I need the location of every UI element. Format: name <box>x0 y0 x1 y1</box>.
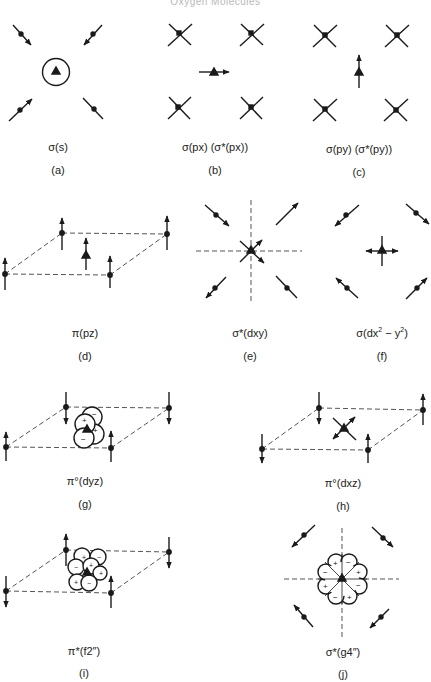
panel-d-diagram <box>3 216 169 290</box>
panel-d-orbital-label: π(pz) <box>15 327 155 339</box>
svg-text:−: − <box>346 558 351 567</box>
panel-g-diagram <box>4 392 171 462</box>
panel-j-tag: (j) <box>273 668 413 680</box>
svg-text:+: + <box>74 579 78 586</box>
svg-text:−: − <box>87 580 91 587</box>
panel-i-diagram <box>4 534 171 608</box>
panel-g-tag: (g) <box>15 498 155 510</box>
svg-text:+: + <box>99 570 103 577</box>
svg-text:−: − <box>81 435 86 444</box>
panel-h-orbital-label: π°(dxz) <box>273 477 413 489</box>
svg-text:−: − <box>323 568 328 577</box>
svg-text:+: + <box>82 416 87 425</box>
panel-f-tag: (f) <box>312 350 431 362</box>
svg-text:−: − <box>356 581 361 590</box>
panel-c-orbital-label: σ(py) (σ*(py)) <box>289 143 429 155</box>
svg-text:+: + <box>356 568 361 577</box>
svg-text:+: + <box>333 559 338 568</box>
svg-text:+: + <box>347 593 352 602</box>
panel-h-diagram <box>260 392 425 463</box>
panel-j-orbital-label: σ*(g4″) <box>273 646 413 658</box>
panel-g-orbital-label: π°(dyz) <box>15 475 155 487</box>
svg-text:+: + <box>89 562 93 569</box>
panel-h-tag: (h) <box>273 500 413 512</box>
panel-d-tag: (d) <box>15 350 155 362</box>
panel-e-diagram <box>196 200 302 302</box>
panel-i-tag: (i) <box>14 667 154 679</box>
panel-b-tag: (b) <box>145 164 285 176</box>
panel-e-orbital-label: σ*(dxy) <box>180 327 320 339</box>
svg-text:+: + <box>82 554 86 561</box>
svg-text:−: − <box>333 593 338 602</box>
panel-j-diagram <box>284 525 399 638</box>
panel-f-orbital-label: σ(dx2 − y2) <box>312 326 431 339</box>
svg-text:+: + <box>93 426 98 435</box>
panel-a-tag: (a) <box>0 164 128 176</box>
svg-text:−: − <box>92 410 97 419</box>
svg-text:+: + <box>323 582 328 591</box>
panel-a-diagram <box>9 25 103 121</box>
panel-c-tag: (c) <box>289 166 429 178</box>
svg-text:−: − <box>97 554 101 561</box>
svg-text:−: − <box>74 564 78 571</box>
panel-a-orbital-label: σ(s) <box>0 141 128 153</box>
panel-e-tag: (e) <box>180 350 320 362</box>
panel-c-diagram <box>313 25 409 121</box>
panel-f-diagram <box>335 204 429 299</box>
panel-i-orbital-label: π*(f2″) <box>14 645 154 657</box>
panel-b-diagram <box>168 24 264 119</box>
orbital-diagram-figure: + − − + <box>0 0 431 682</box>
panel-b-orbital-label: σ(px) (σ*(px)) <box>145 141 285 153</box>
